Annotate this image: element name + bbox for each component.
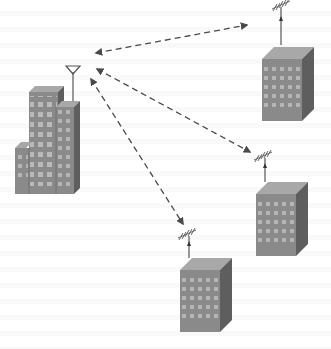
central-tower: [15, 66, 80, 194]
link-remote-1: [96, 25, 247, 53]
link-remote-3: [91, 79, 183, 224]
yagi-antenna-icon: [178, 228, 196, 258]
yagi-antenna-icon: [254, 150, 272, 182]
yagi-antenna-icon: [272, 0, 290, 45]
remote-building-2: [254, 150, 308, 256]
link-remote-2: [97, 69, 250, 152]
remote-building-3: [178, 228, 232, 332]
network-diagram: [0, 0, 331, 349]
remote-building-1: [262, 0, 314, 121]
dipole-antenna-icon: [66, 66, 80, 102]
